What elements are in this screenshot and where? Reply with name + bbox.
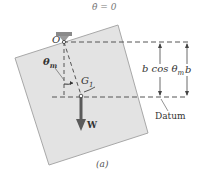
bcos-arrow-down — [158, 91, 162, 96]
figure-caption: (a) — [96, 160, 108, 169]
bcos-label: b cos θm — [141, 64, 185, 77]
center-point-g — [79, 94, 83, 98]
bcos-subscript: m — [178, 69, 185, 77]
angle-subscript: m — [50, 61, 57, 70]
diagram-graphics — [0, 0, 202, 180]
center-symbol: G — [81, 75, 89, 86]
pivot-label-o: O — [52, 35, 60, 45]
theta-dot-label: θ̇ = 0 — [92, 3, 116, 12]
b-arrow-down — [185, 91, 189, 96]
center-subscript: 1 — [89, 81, 93, 89]
angle-symbol: θ — [43, 56, 50, 67]
datum-leader — [161, 99, 168, 111]
datum-label: Datum — [155, 112, 186, 121]
weight-label: W — [87, 121, 97, 130]
pendulum-plate-diagram: θ̇ = 0 O θm G1 W b cos θm b Datum (a) — [0, 0, 202, 180]
b-arrow-up — [185, 43, 189, 48]
angle-label: θm — [43, 57, 57, 69]
b-label: b — [185, 64, 191, 76]
bcos-arrow-up — [158, 43, 162, 48]
center-label-g: G1 — [81, 76, 93, 89]
bcos-main: b cos θ — [142, 63, 178, 74]
pivot-point-o — [62, 40, 65, 43]
